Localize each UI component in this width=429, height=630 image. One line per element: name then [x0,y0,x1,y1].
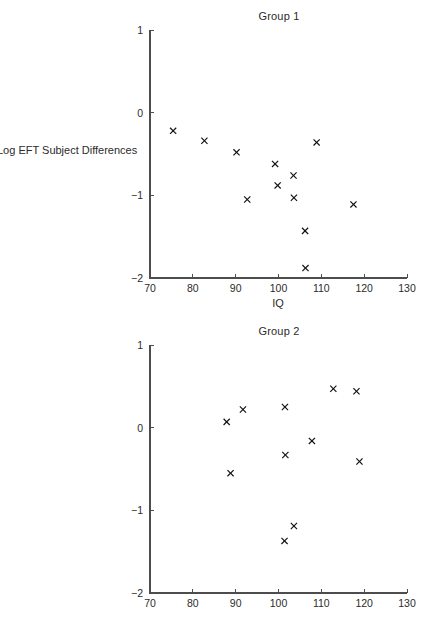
data-point-marker [290,172,296,178]
data-point-marker [201,138,207,144]
x-axis-tick-label: 130 [398,282,416,294]
data-point-marker [302,265,308,271]
x-axis-tick-label: 90 [230,282,242,294]
x-axis-tick-label: 130 [398,597,416,609]
data-point-marker [291,523,297,529]
x-axis-tick-label: 70 [144,282,156,294]
data-point-marker [281,538,287,544]
plot-area-group-1: 70809010011012013010−1−2 [0,0,429,315]
y-axis-tick-label: 0 [137,422,143,434]
x-axis-tick-label: 100 [270,597,288,609]
x-axis-tick-label: 110 [313,282,330,294]
plot-area-group-2: 70809010011012013010−1−2 [0,315,429,630]
x-axis-tick-label: 110 [313,597,330,609]
x-axis-tick-label: 120 [355,282,373,294]
data-point-marker [282,404,288,410]
x-axis-tick-label: 100 [270,282,288,294]
x-axis-tick-label: 80 [187,282,199,294]
data-point-marker [309,438,315,444]
axis-spine [150,345,407,593]
data-point-marker [233,149,239,155]
y-axis-tick-label: −2 [131,587,143,599]
x-axis-tick-label: 120 [355,597,373,609]
data-point-marker [330,386,336,392]
data-point-marker [350,201,356,207]
scatter-panel-group-1: Group 1 Log EFT Subject Differences IQ 7… [0,0,429,315]
data-point-marker [291,195,297,201]
axis-spine [150,30,407,278]
data-point-marker [353,388,359,394]
y-axis-tick-label: −1 [131,189,143,201]
data-point-marker [224,419,230,425]
x-axis-tick-label: 90 [230,597,242,609]
y-axis-tick-label: −1 [131,504,143,516]
y-axis-tick-label: −2 [131,272,143,284]
data-point-marker [282,452,288,458]
data-point-marker [314,139,320,145]
y-axis-tick-label: 0 [137,107,143,119]
data-point-marker [302,228,308,234]
data-point-marker [272,161,278,167]
data-point-marker [275,182,281,188]
x-axis-tick-label: 80 [187,597,199,609]
data-point-marker [240,406,246,412]
figure-two-scatter-panels: Group 1 Log EFT Subject Differences IQ 7… [0,0,429,630]
data-point-marker [227,470,233,476]
data-point-marker [356,458,362,464]
y-axis-tick-label: 1 [137,24,143,36]
y-axis-tick-label: 1 [137,339,143,351]
data-point-marker [170,128,176,134]
data-point-marker [244,196,250,202]
x-axis-tick-label: 70 [144,597,156,609]
scatter-panel-group-2: Group 2 Log EFT Subject Differences IQ 7… [0,315,429,630]
